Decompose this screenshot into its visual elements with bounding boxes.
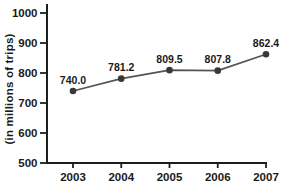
data-point [166, 67, 173, 74]
data-point-label: 807.8 [205, 53, 231, 65]
y-tick-label: 700 [18, 97, 37, 109]
data-point [70, 88, 77, 95]
y-tick-label: 800 [18, 67, 37, 79]
data-point-label: 809.5 [156, 53, 182, 65]
y-tick-label: 900 [18, 37, 37, 49]
data-point-label: 740.0 [60, 74, 86, 86]
x-tick-label: 2007 [253, 171, 279, 183]
y-tick-label: 1000 [12, 7, 38, 19]
x-tick-label: 2003 [60, 171, 86, 183]
x-tick-label: 2005 [157, 171, 183, 183]
y-axis-title: (in millions of trips) [3, 33, 15, 144]
data-point-label: 781.2 [108, 61, 134, 73]
data-point [118, 75, 125, 82]
line-chart: 5006007008009001000200320042005200620077… [0, 0, 284, 188]
data-point [214, 67, 221, 74]
chart-figure: 5006007008009001000200320042005200620077… [0, 0, 284, 188]
x-tick-label: 2006 [205, 171, 231, 183]
data-point-label: 862.4 [253, 37, 279, 49]
y-tick-label: 500 [18, 157, 37, 169]
data-point [263, 51, 270, 58]
y-tick-label: 600 [18, 127, 37, 139]
x-tick-label: 2004 [108, 171, 134, 183]
